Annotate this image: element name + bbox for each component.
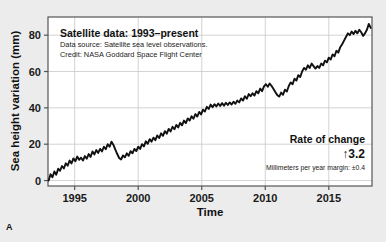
chart-header-credit: Credit: NASA Goddard Space Flight Center [60, 50, 202, 59]
x-tick-label: 1995 [62, 192, 86, 204]
figure-panel: 020406080 19952000200520102015 Time Sea … [0, 0, 386, 242]
x-axis-title: Time [197, 206, 224, 218]
x-tick-label: 2005 [189, 192, 213, 204]
y-tick-label: 0 [35, 175, 41, 187]
chart-header-title: Satellite data: 1993–present [60, 27, 199, 39]
y-tick-label: 80 [29, 29, 41, 41]
rate-of-change-value: ↑3.2 [342, 147, 365, 161]
panel-letter: A [6, 222, 13, 232]
y-axis-title: Sea height variation (mm) [9, 31, 21, 172]
x-tick-label: 2000 [126, 192, 150, 204]
y-tick-label: 60 [29, 66, 41, 78]
rate-of-change-title: Rate of change [290, 133, 365, 145]
sea-level-chart: 020406080 19952000200520102015 Time Sea … [0, 0, 386, 242]
rate-of-change-margin: Millimeters per year margin: ±0.4 [266, 164, 365, 172]
y-tick-label: 20 [29, 138, 41, 150]
chart-header-source: Data source: Satellite sea level observa… [60, 40, 207, 49]
y-tick-label: 40 [29, 102, 41, 114]
x-tick-label: 2015 [317, 192, 341, 204]
x-tick-label: 2010 [253, 192, 277, 204]
